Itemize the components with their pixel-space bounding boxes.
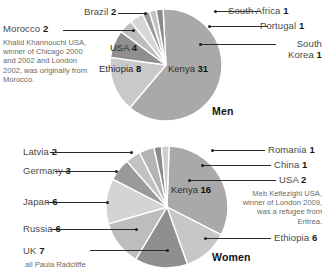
women-value-kenya: 16 <box>201 184 212 195</box>
leader-line-morocco <box>63 30 134 31</box>
marathon-winners-pie-figure: South Africa 1 Portugal 1 South Korea 1 … <box>0 0 325 280</box>
women-label-russia: Russia 6 <box>23 223 61 234</box>
leader-dot-romania <box>211 149 214 152</box>
leader-line-usa-women <box>190 180 276 181</box>
women-value-russia: 6 <box>55 223 60 234</box>
leader-dot-germany <box>115 170 118 173</box>
leader-dot-portugal <box>208 25 211 28</box>
men-chart-title: Men <box>212 105 234 117</box>
women-label-latvia: Latvia 2 <box>23 146 57 157</box>
leader-line-china <box>203 165 271 166</box>
women-value-romania: 1 <box>309 144 314 155</box>
women-label-kenya: Kenya 16 <box>171 184 211 195</box>
leader-dot-uk <box>166 249 169 252</box>
men-value-ethiopia: 8 <box>136 63 141 74</box>
leader-dot-ethiopia-women <box>204 237 207 240</box>
women-label-germany: Germany 3 <box>23 165 71 176</box>
leader-dot-south-korea <box>199 43 202 46</box>
men-label-morocco: Morocco 2 <box>3 23 48 34</box>
men-label-usa-text: USA <box>110 42 129 53</box>
leader-dot-japan <box>106 201 109 204</box>
men-label-south-africa-text: South Africa <box>228 5 280 16</box>
women-chart-title: Women <box>212 251 251 263</box>
leader-dot-usa-women <box>188 179 191 182</box>
leader-line-romania <box>213 150 265 151</box>
leader-dot-south-africa <box>214 10 217 13</box>
women-label-china-text: China <box>274 159 299 170</box>
women-value-latvia: 2 <box>52 146 57 157</box>
women-value-usa: 2 <box>301 174 306 185</box>
men-label-ethiopia-text: Ethiopia <box>99 63 133 74</box>
women-label-germany-text: Germany <box>23 165 63 176</box>
men-value-kenya: 31 <box>198 63 209 74</box>
men-label-south-korea: South Korea 1 <box>230 38 322 60</box>
women-label-romania-text: Romania <box>268 144 307 155</box>
men-annotation-khannouchi: Khalid Khannouchi USA, winner of Chicago… <box>3 38 91 84</box>
men-label-portugal: Portugal 1 <box>260 20 304 31</box>
women-label-ethiopia-text: Ethiopia <box>274 232 309 243</box>
leader-dot-china <box>201 164 204 167</box>
women-footnote-paula-radcliffe: all Paula Radcliffe <box>25 260 125 269</box>
men-label-portugal-text: Portugal <box>260 20 296 31</box>
men-label-south-korea-line2: Korea <box>288 49 314 60</box>
leader-line-latvia <box>50 152 132 153</box>
leader-dot-latvia <box>130 151 133 154</box>
men-value-portugal: 1 <box>299 20 304 31</box>
women-annotation-keflezighi: Meb Keflezighi USA, winner of London 200… <box>233 189 322 226</box>
men-label-usa: USA 4 <box>110 42 137 53</box>
women-value-china: 1 <box>302 159 307 170</box>
men-value-south-africa: 1 <box>283 5 288 16</box>
leader-line-ethiopia-women <box>206 238 271 239</box>
women-label-usa: USA 2 <box>279 174 306 185</box>
men-value-morocco: 2 <box>43 23 48 34</box>
men-label-ethiopia: Ethiopia 8 <box>99 63 141 74</box>
women-label-uk-text: UK <box>23 245 36 256</box>
men-value-south-korea: 1 <box>317 49 322 60</box>
men-label-brazil-text: Brazil <box>84 6 108 17</box>
women-label-usa-text: USA <box>279 174 298 185</box>
leader-dot-morocco <box>132 29 135 32</box>
women-label-china: China 1 <box>274 159 307 170</box>
women-label-japan: Japan 6 <box>23 196 58 207</box>
women-value-uk: 7 <box>39 245 44 256</box>
leader-line-brazil <box>118 13 146 14</box>
women-label-uk: UK 7 <box>23 245 45 256</box>
men-value-brazil: 2 <box>111 6 116 17</box>
men-label-kenya-text: Kenya <box>168 63 195 74</box>
leader-line-russia <box>50 229 137 230</box>
men-label-south-korea-line2-row: Korea 1 <box>230 49 322 60</box>
women-label-romania: Romania 1 <box>268 144 315 155</box>
men-value-usa: 4 <box>132 42 137 53</box>
women-value-ethiopia: 6 <box>312 232 317 243</box>
women-label-ethiopia: Ethiopia 6 <box>274 232 317 243</box>
women-label-kenya-text: Kenya <box>171 184 198 195</box>
men-label-brazil: Brazil 2 <box>84 6 117 17</box>
men-label-kenya: Kenya 31 <box>168 63 208 74</box>
women-label-latvia-text: Latvia <box>23 146 49 157</box>
leader-line-uk <box>90 250 168 251</box>
leader-dot-brazil <box>144 12 147 15</box>
men-label-south-korea-line1: South <box>230 38 322 49</box>
women-value-japan: 6 <box>52 196 57 207</box>
women-value-germany: 3 <box>66 165 71 176</box>
leader-dot-russia <box>135 228 138 231</box>
women-label-russia-text: Russia <box>23 223 53 234</box>
men-label-morocco-text: Morocco <box>3 23 40 34</box>
women-label-japan-text: Japan <box>23 196 49 207</box>
men-label-south-africa: South Africa 1 <box>228 5 289 16</box>
